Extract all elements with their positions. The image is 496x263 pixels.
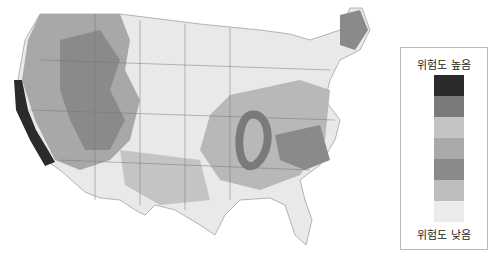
swatch-2: [434, 96, 464, 117]
legend-high-label: 위험도 높음: [401, 56, 487, 72]
swatch-3: [434, 117, 464, 138]
legend-low-label: 위험도 낮음: [401, 226, 487, 242]
swatch-1: [434, 75, 464, 96]
legend: 위험도 높음 위험도 낮음: [400, 47, 488, 250]
swatch-4: [434, 138, 464, 159]
us-risk-map: [0, 0, 400, 263]
legend-swatches: [434, 75, 464, 222]
swatch-6: [434, 180, 464, 201]
swatch-7: [434, 201, 464, 222]
swatch-5: [434, 159, 464, 180]
